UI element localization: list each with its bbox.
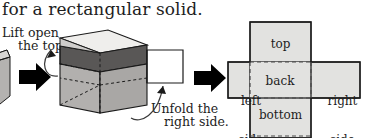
open-box-illustration — [60, 30, 147, 113]
figure-canvas: for a rectangular solid. Lift open the t… — [0, 0, 367, 138]
net-label-right-side: right side — [321, 69, 364, 138]
right-block-arrow-icon-1 — [19, 63, 51, 91]
net-label-left-side-line1: left — [231, 95, 271, 108]
net-label-back: back — [255, 75, 305, 88]
box-front-face — [100, 64, 147, 113]
curved-arrow-icon-lid — [45, 50, 58, 76]
figure-graphics — [0, 0, 367, 138]
net-label-top: top — [253, 38, 308, 51]
box-left-face — [60, 64, 100, 113]
net-label-right-side-line1: right — [321, 95, 364, 108]
net-label-left-side-line2: side — [231, 134, 271, 138]
net-label-bottom: bottom — [253, 109, 308, 122]
net-label-right-side-line2: side — [321, 134, 364, 138]
right-block-arrow-icon-2 — [194, 64, 226, 92]
previous-step-box-fragment — [0, 50, 10, 104]
unfolded-right-side-flap — [147, 50, 183, 83]
